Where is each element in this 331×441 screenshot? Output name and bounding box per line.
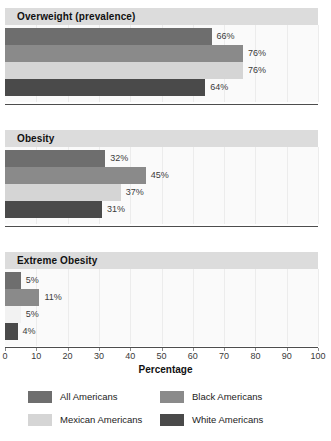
bar bbox=[5, 45, 243, 62]
gridline bbox=[130, 269, 131, 346]
legend-swatch bbox=[160, 414, 184, 426]
bar bbox=[5, 306, 21, 323]
bar-value-label: 4% bbox=[23, 323, 36, 340]
gridline bbox=[318, 25, 319, 102]
legend-swatch bbox=[28, 391, 52, 403]
bar-value-label: 5% bbox=[26, 306, 39, 323]
x-axis-title: Percentage bbox=[0, 364, 331, 375]
bar bbox=[5, 62, 243, 79]
gridline bbox=[99, 269, 100, 346]
chart-panel: Overweight (prevalence)66%76%76%64% bbox=[5, 8, 318, 102]
legend-swatch bbox=[160, 391, 184, 403]
bar bbox=[5, 201, 102, 218]
panel-plot-area: 5%11%5%4% bbox=[5, 269, 318, 346]
x-axis-tick-label: 80 bbox=[240, 351, 270, 361]
gridline bbox=[255, 147, 256, 224]
x-axis-tick-label: 90 bbox=[272, 351, 302, 361]
panel-title: Overweight (prevalence) bbox=[17, 11, 135, 22]
gridline bbox=[318, 269, 319, 346]
panel-separator bbox=[5, 104, 318, 105]
gridline bbox=[224, 269, 225, 346]
gridline bbox=[162, 269, 163, 346]
legend-label: Mexican Americans bbox=[60, 412, 142, 428]
gridline bbox=[287, 269, 288, 346]
x-axis-tick-label: 30 bbox=[84, 351, 114, 361]
bar bbox=[5, 150, 105, 167]
panel-plot-area: 32%45%37%31% bbox=[5, 147, 318, 224]
panel-separator bbox=[5, 226, 318, 227]
bar bbox=[5, 289, 39, 306]
chart-panel: Obesity32%45%37%31% bbox=[5, 130, 318, 224]
gridline bbox=[193, 269, 194, 346]
x-axis-tick-label: 40 bbox=[115, 351, 145, 361]
gridline bbox=[287, 25, 288, 102]
bar bbox=[5, 184, 121, 201]
gridline bbox=[224, 147, 225, 224]
x-axis-tick-label: 50 bbox=[147, 351, 177, 361]
x-axis-tick-label: 60 bbox=[178, 351, 208, 361]
legend-label: Black Americans bbox=[192, 389, 262, 405]
chart-panel: Extreme Obesity5%11%5%4% bbox=[5, 252, 318, 346]
bar-chart: Overweight (prevalence)66%76%76%64%Obesi… bbox=[0, 0, 331, 441]
x-axis-tick-label: 100 bbox=[303, 351, 331, 361]
bar-value-label: 32% bbox=[110, 150, 128, 167]
gridline bbox=[68, 269, 69, 346]
bar-value-label: 37% bbox=[126, 184, 144, 201]
gridline bbox=[318, 147, 319, 224]
bar bbox=[5, 28, 212, 45]
bar bbox=[5, 323, 18, 340]
bar-value-label: 11% bbox=[44, 289, 61, 306]
chart-legend: All AmericansBlack AmericansMexican Amer… bbox=[0, 385, 331, 435]
gridline bbox=[193, 147, 194, 224]
panel-title: Obesity bbox=[17, 133, 54, 144]
gridline bbox=[162, 147, 163, 224]
bar-value-label: 5% bbox=[26, 272, 39, 289]
legend-label: White Americans bbox=[192, 412, 263, 428]
bar-value-label: 76% bbox=[248, 45, 266, 62]
gridline bbox=[255, 269, 256, 346]
bar-value-label: 64% bbox=[210, 79, 228, 96]
legend-label: All Americans bbox=[60, 389, 118, 405]
bar-value-label: 31% bbox=[107, 201, 125, 218]
bar bbox=[5, 79, 205, 96]
gridline bbox=[287, 147, 288, 224]
x-axis-tick-label: 10 bbox=[21, 351, 51, 361]
legend-swatch bbox=[28, 414, 52, 426]
bar-value-label: 45% bbox=[151, 167, 169, 184]
bar-value-label: 76% bbox=[248, 62, 266, 79]
bar bbox=[5, 167, 146, 184]
x-axis-tick-label: 20 bbox=[53, 351, 83, 361]
bar bbox=[5, 272, 21, 289]
bar-value-label: 66% bbox=[217, 28, 235, 45]
x-axis-tick-label: 0 bbox=[0, 351, 20, 361]
panel-plot-area: 66%76%76%64% bbox=[5, 25, 318, 102]
panel-title: Extreme Obesity bbox=[17, 255, 97, 266]
x-axis-tick-label: 70 bbox=[209, 351, 239, 361]
